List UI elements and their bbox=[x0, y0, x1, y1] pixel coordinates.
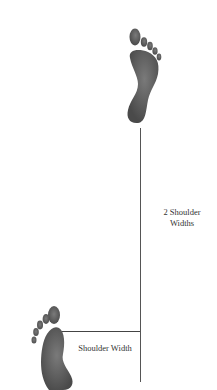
right-footprint-icon bbox=[126, 28, 166, 126]
shoulder-width-label: Shoulder Width bbox=[76, 343, 134, 354]
vertical-measure-line bbox=[140, 128, 141, 382]
left-footprint-icon bbox=[19, 306, 75, 390]
two-shoulder-widths-label: 2 Shoulder Widths bbox=[160, 207, 204, 229]
